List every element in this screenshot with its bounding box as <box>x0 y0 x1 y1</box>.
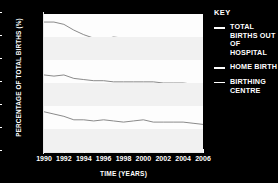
y-tick-mark <box>0 12 2 13</box>
legend-line-icon <box>214 67 225 69</box>
legend-item[interactable]: BIRTHING CENTRE <box>214 78 278 95</box>
chart-legend: KEY TOTAL BIRTHS OUT OF HOSPITALHOME BIR… <box>214 8 278 101</box>
y-tick-mark <box>0 127 2 128</box>
legend-item[interactable]: HOME BIRTH <box>214 63 278 72</box>
plot-band <box>44 129 203 152</box>
legend-line-icon <box>214 82 225 84</box>
x-tick-label: 2002 <box>155 155 171 162</box>
x-tick-label: 1994 <box>76 155 92 162</box>
x-axis-title: TIME (YEARS) <box>44 170 203 177</box>
legend-line-icon <box>214 27 225 29</box>
series-line <box>44 112 203 125</box>
plot-band <box>44 37 203 60</box>
legend-title: KEY <box>214 8 278 17</box>
plot-area <box>44 14 203 152</box>
y-tick-mark <box>0 104 2 105</box>
legend-item-label: TOTAL BIRTHS OUT OF HOSPITAL <box>230 23 278 57</box>
legend-item-label: HOME BIRTH <box>230 63 277 72</box>
y-tick-mark <box>0 150 2 151</box>
line-chart: PERCENTAGE OF TOTAL BIRTHS (%) 00.20.40.… <box>0 0 210 183</box>
y-tick-mark <box>0 58 2 59</box>
x-tick-label: 1992 <box>56 155 72 162</box>
x-tick-label: 1996 <box>96 155 112 162</box>
y-axis-title: PERCENTAGE OF TOTAL BIRTHS (%) <box>15 4 22 152</box>
x-tick-label: 1990 <box>36 155 52 162</box>
x-tick-label: 2006 <box>195 155 211 162</box>
x-tick-label: 2000 <box>136 155 152 162</box>
x-tick-mark <box>203 149 204 153</box>
x-tick-label: 1998 <box>116 155 132 162</box>
y-tick-mark <box>0 35 2 36</box>
y-tick-mark <box>0 81 2 82</box>
plot-band <box>44 83 203 106</box>
chart-page: PERCENTAGE OF TOTAL BIRTHS (%) 00.20.40.… <box>0 0 278 183</box>
legend-item[interactable]: TOTAL BIRTHS OUT OF HOSPITAL <box>214 23 278 57</box>
legend-item-label: BIRTHING CENTRE <box>230 78 278 95</box>
x-tick-label: 2004 <box>175 155 191 162</box>
